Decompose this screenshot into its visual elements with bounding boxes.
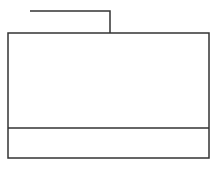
diagram-canvas [0, 0, 216, 172]
container-box [8, 33, 209, 158]
connector-line [30, 11, 110, 33]
diagram-svg [0, 0, 216, 172]
